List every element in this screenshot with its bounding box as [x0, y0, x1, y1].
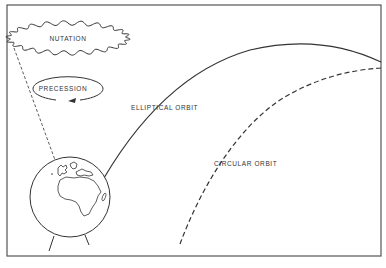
circular-orbit-path: [180, 68, 381, 244]
circular-orbit-label: CIRCULAR ORBIT: [214, 160, 277, 167]
precession-arrow-icon: [68, 98, 76, 103]
precession-label: PRECESSION: [39, 85, 88, 92]
elliptical-orbit-label: ELLIPTICAL ORBIT: [131, 104, 198, 111]
nutation-label: NUTATION: [49, 35, 86, 42]
earth-globe: [30, 157, 110, 237]
island-dot: [51, 173, 53, 175]
support-line-right: [85, 235, 89, 245]
earth-axis-dashed-line: [14, 48, 55, 160]
orbit-diagram: NUTATION PRECESSION ELLIPTICAL ORBIT CIR…: [0, 0, 386, 268]
support-line-left: [49, 236, 54, 251]
elliptical-orbit-path: [96, 44, 381, 192]
